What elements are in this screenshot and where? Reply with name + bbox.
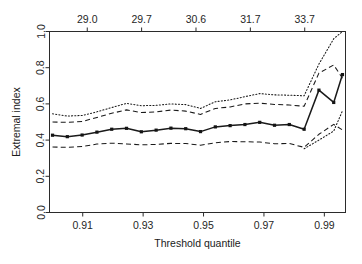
x-tick-label: 0.99: [314, 219, 335, 231]
data-point-marker: [214, 125, 217, 128]
data-point-marker: [317, 89, 320, 92]
y-axis-title: Extremal index: [10, 87, 22, 157]
y-tick-label: 1.0: [35, 24, 47, 39]
data-point-marker: [95, 131, 98, 134]
x-axis-title: Threshold quantile: [154, 237, 241, 249]
data-point-marker: [258, 121, 261, 124]
data-point-marker: [332, 101, 335, 104]
top-tick-label: 31.7: [240, 13, 261, 25]
data-point-marker: [140, 130, 143, 133]
chart-background: [0, 0, 362, 264]
y-tick-label: 0.6: [35, 96, 47, 111]
data-point-marker: [243, 123, 246, 126]
top-tick-label: 29.0: [77, 13, 98, 25]
data-point-marker: [288, 123, 291, 126]
data-point-marker: [66, 135, 69, 138]
data-point-marker: [169, 127, 172, 130]
y-tick-label: 0.0: [35, 205, 47, 220]
top-tick-label: 30.6: [186, 13, 207, 25]
data-point-marker: [341, 73, 344, 76]
data-point-marker: [273, 124, 276, 127]
data-point-marker: [303, 128, 306, 131]
x-tick-label: 0.95: [193, 219, 214, 231]
data-point-marker: [110, 128, 113, 131]
x-tick-label: 0.91: [73, 219, 94, 231]
y-tick-label: 0.4: [35, 133, 47, 148]
extremal-index-chart: 29.029.730.631.733.7 0.910.930.950.970.9…: [0, 0, 362, 264]
data-point-marker: [184, 127, 187, 130]
data-point-marker: [81, 133, 84, 136]
y-tick-label: 0.2: [35, 169, 47, 184]
x-tick-label: 0.93: [133, 219, 154, 231]
top-tick-label: 29.7: [131, 13, 152, 25]
data-point-marker: [125, 127, 128, 130]
data-point-marker: [199, 130, 202, 133]
top-tick-label: 33.7: [295, 13, 316, 25]
chart-figure: 29.029.730.631.733.7 0.910.930.950.970.9…: [0, 0, 362, 264]
data-point-marker: [155, 129, 158, 132]
data-point-marker: [51, 134, 54, 137]
data-point-marker: [229, 124, 232, 127]
x-tick-label: 0.97: [254, 219, 275, 231]
y-tick-label: 0.8: [35, 60, 47, 75]
